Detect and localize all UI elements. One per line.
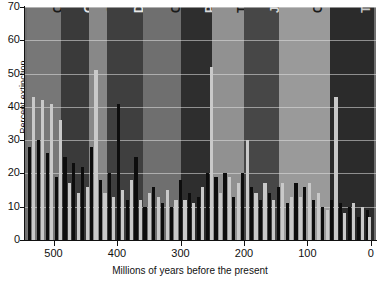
bar xyxy=(201,187,204,240)
bar xyxy=(112,197,115,240)
y-tick-label-50: 50 xyxy=(0,68,20,79)
bar xyxy=(148,193,151,240)
bar xyxy=(90,147,93,240)
x-axis-label: Millions of years before the present xyxy=(0,265,380,276)
bar xyxy=(170,207,173,240)
gridline-60 xyxy=(25,40,376,41)
bar xyxy=(130,180,133,240)
bar xyxy=(50,104,53,240)
bar xyxy=(299,197,302,240)
bar xyxy=(94,70,97,240)
y-tick-mark-50 xyxy=(20,74,24,75)
y-tick-label-0: 0 xyxy=(0,234,20,245)
x-tick-label-400: 400 xyxy=(92,248,142,259)
y-tick-label-10: 10 xyxy=(0,201,20,212)
gridline-30 xyxy=(25,140,376,141)
bar xyxy=(339,203,342,240)
bar xyxy=(326,210,329,240)
y-tick-mark-60 xyxy=(20,40,24,41)
bar xyxy=(219,193,222,240)
bar xyxy=(361,207,364,240)
x-tick-mark-300 xyxy=(181,241,182,246)
y-tick-mark-10 xyxy=(20,207,24,208)
bar xyxy=(368,217,371,240)
bar xyxy=(228,177,231,240)
bar xyxy=(121,190,124,240)
bar xyxy=(46,153,49,240)
bar xyxy=(28,147,31,240)
bar xyxy=(68,183,71,240)
gridline-50 xyxy=(25,74,376,75)
bar xyxy=(294,183,297,240)
bar xyxy=(277,187,280,240)
x-tick-label-300: 300 xyxy=(156,248,206,259)
y-axis-tick-labels: 010203040506070 xyxy=(0,0,20,284)
bar xyxy=(139,200,142,240)
bar xyxy=(317,193,320,240)
bar xyxy=(272,200,275,240)
gridline-20 xyxy=(25,173,376,174)
bar xyxy=(343,213,346,240)
bar xyxy=(63,157,66,240)
bar xyxy=(174,200,177,240)
x-tick-label-200: 200 xyxy=(219,248,269,259)
x-tick-label-100: 100 xyxy=(282,248,332,259)
bar xyxy=(192,203,195,240)
bar xyxy=(103,193,106,240)
bar xyxy=(330,200,333,240)
bar xyxy=(72,163,75,240)
bar xyxy=(179,180,182,240)
bar xyxy=(41,100,44,240)
bar xyxy=(286,203,289,240)
bar xyxy=(143,207,146,240)
y-tick-mark-20 xyxy=(20,173,24,174)
y-tick-label-40: 40 xyxy=(0,101,20,112)
bar xyxy=(32,97,35,240)
x-tick-mark-400 xyxy=(117,241,118,246)
y-tick-mark-0 xyxy=(20,240,24,241)
bar xyxy=(254,193,257,240)
bar xyxy=(183,200,186,240)
x-tick-label-500: 500 xyxy=(29,248,79,259)
bar xyxy=(157,197,160,240)
bar xyxy=(152,187,155,240)
x-tick-label-0: 0 xyxy=(346,248,380,259)
bar xyxy=(334,97,337,240)
gridline-40 xyxy=(25,107,376,108)
bar xyxy=(197,197,200,240)
bar xyxy=(223,173,226,240)
gridline-70 xyxy=(25,7,376,8)
bar xyxy=(268,193,271,240)
bar xyxy=(99,180,102,240)
bar xyxy=(290,197,293,240)
bar xyxy=(241,173,244,240)
bar xyxy=(134,157,137,240)
bar xyxy=(55,177,58,240)
bar xyxy=(259,200,262,240)
bar xyxy=(308,183,311,240)
bar xyxy=(237,183,240,240)
y-tick-label-70: 70 xyxy=(0,1,20,12)
bar xyxy=(312,200,315,240)
bar xyxy=(210,67,213,240)
bar xyxy=(59,120,62,240)
y-axis-line xyxy=(24,6,25,241)
x-tick-mark-100 xyxy=(307,241,308,246)
y-tick-label-30: 30 xyxy=(0,134,20,145)
bar xyxy=(246,140,249,240)
bar xyxy=(357,217,360,240)
x-tick-mark-500 xyxy=(54,241,55,246)
bar xyxy=(37,140,40,240)
x-tick-mark-200 xyxy=(244,241,245,246)
y-tick-label-60: 60 xyxy=(0,34,20,45)
bar xyxy=(77,193,80,240)
bar xyxy=(303,187,306,240)
bar xyxy=(108,173,111,240)
plot-area: CambrianOrdovicianSilurianDevonianCarbon… xyxy=(25,7,376,240)
bar xyxy=(348,207,351,240)
x-tick-mark-0 xyxy=(371,241,372,246)
bar xyxy=(352,203,355,240)
bar xyxy=(214,177,217,240)
bar xyxy=(161,203,164,240)
bar xyxy=(188,193,191,240)
